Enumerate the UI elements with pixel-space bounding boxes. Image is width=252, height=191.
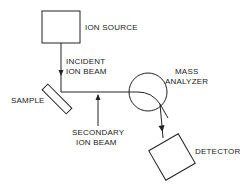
mass-analyzer-label-1: MASS: [175, 67, 198, 76]
incident-beam-arrow-icon: [59, 70, 64, 76]
ion-source-label: ION SOURCE: [85, 23, 138, 32]
secondary-beam-label-1: SECONDARY: [72, 128, 124, 137]
detector-label: DETECTOR: [195, 147, 240, 156]
detector-beam-arrow-icon: [159, 125, 165, 132]
detector-box: [149, 134, 195, 180]
mass-analyzer-label-2: ANALYZER: [165, 77, 208, 86]
incident-beam-label-1: INCIDENT: [66, 57, 105, 66]
secondary-pointer-arrow-icon: [96, 94, 101, 100]
incident-beam-label-2: ION BEAM: [66, 67, 107, 76]
sample-label: SAMPLE: [11, 96, 45, 105]
secondary-beam-path: [61, 92, 168, 118]
sample-plate: [42, 84, 72, 114]
ion-source-box: [42, 11, 80, 43]
secondary-beam-label-2: ION BEAM: [76, 138, 117, 147]
